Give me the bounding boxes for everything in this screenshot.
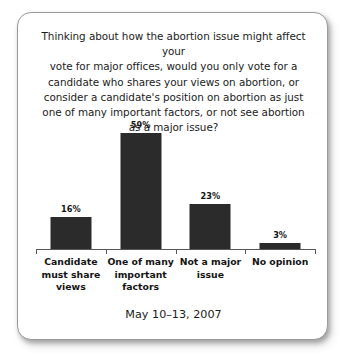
bar[interactable] [50,217,91,249]
bar[interactable] [190,204,231,249]
bar-slot: 16% [36,121,106,249]
bar-slot: 23% [176,121,246,249]
chart-page: Thinking about how the abortion issue mi… [0,0,344,362]
x-axis-tick [315,249,316,254]
chart-question-title: Thinking about how the abortion issue mi… [32,29,315,135]
x-axis-category-label: No opinion [245,256,315,269]
x-axis-category-label: One of manyimportantfactors [106,256,176,294]
bar-value-label: 23% [201,191,221,201]
bar-value-label: 3% [273,230,287,240]
category-label-line: views [36,281,106,294]
x-axis-tick [36,249,37,254]
bar[interactable] [260,243,301,249]
chart-card: Thinking about how the abortion issue mi… [17,12,328,340]
x-axis-category-labels: Candidatemust shareviewsOne of manyimpor… [36,256,315,304]
category-label-line: factors [106,281,176,294]
category-label-line: Candidate [36,256,106,269]
title-line: candidate who shares your views on abort… [32,75,315,90]
x-axis-tick [245,249,246,254]
x-axis-tick [106,249,107,254]
category-label-line: One of many [106,256,176,269]
x-axis-tick [176,249,177,254]
category-label-line: must share [36,269,106,282]
bar-value-label: 16% [61,204,81,214]
bar-chart-plot-area: 16%59%23%3% [36,121,315,249]
bar[interactable] [120,133,161,249]
category-label-line: Not a major [176,256,246,269]
x-axis-category-label: Candidatemust shareviews [36,256,106,294]
bar-slot: 59% [106,121,176,249]
category-label-line: important [106,269,176,282]
title-line: vote for major offices, would you only v… [32,59,315,74]
x-axis-category-label: Not a majorissue [176,256,246,281]
title-line: one of many important factors, or not se… [32,105,315,120]
survey-date-caption: May 10–13, 2007 [32,308,315,321]
title-line: Thinking about how the abortion issue mi… [32,29,315,59]
bar-slot: 3% [245,121,315,249]
title-line: consider a candidate's position on abort… [32,90,315,105]
category-label-line: No opinion [245,256,315,269]
category-label-line: issue [176,269,246,282]
bar-value-label: 59% [131,120,151,130]
